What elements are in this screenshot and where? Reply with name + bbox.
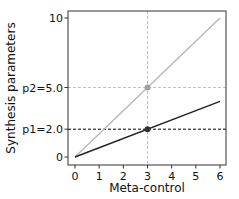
x-tick-label: 0	[72, 170, 79, 183]
y-tick-label: p1=2.0	[22, 123, 63, 136]
chart: 01234560p1=2.0p2=5.010 Meta-control Synt…	[0, 0, 239, 199]
x-tick-label: 6	[217, 170, 224, 183]
y-tick-label: p2=5.0	[22, 82, 63, 95]
x-axis-label: Meta-control	[109, 181, 185, 195]
y-axis-label: Synthesis parameters	[4, 22, 18, 153]
x-tick-label: 5	[192, 170, 199, 183]
y-tick-label: 10	[49, 12, 63, 25]
data-marker	[145, 126, 151, 132]
data-marker	[145, 85, 151, 91]
x-tick-label: 1	[96, 170, 103, 183]
plot-area: 01234560p1=2.0p2=5.010	[22, 11, 226, 183]
y-tick-label: 0	[56, 151, 63, 164]
